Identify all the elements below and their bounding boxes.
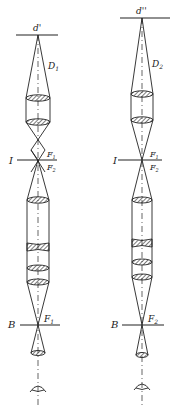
right-object-label: d''	[136, 6, 147, 16]
left-optical-train	[16, 35, 60, 405]
left-back-plane-label: B	[7, 319, 15, 330]
right-diameter-label: D2	[151, 59, 163, 70]
right-intermediate-label: I	[112, 155, 118, 166]
left-eyepiece-lens	[31, 351, 45, 356]
right-lens-1	[131, 91, 153, 97]
left-lens-6	[27, 279, 49, 285]
left-diameter-label: D1	[47, 61, 59, 72]
left-back-focus-label: F1	[43, 314, 54, 325]
right-lens-5	[132, 259, 152, 265]
right-lens-3	[132, 197, 152, 203]
left-lens-5	[27, 265, 49, 271]
left-intermediate-label: I	[8, 155, 14, 166]
optical-diagram: d' D1 I F1 F2 B F1	[0, 0, 178, 412]
left-focus-bottom-label: F2	[46, 163, 56, 173]
left-lens-2	[26, 119, 50, 125]
right-back-focus-label: F2	[147, 314, 158, 325]
right-lens-2	[131, 117, 153, 123]
left-lens-1	[26, 95, 50, 101]
left-focus-top-label: F1	[46, 150, 56, 160]
right-optical-train	[118, 18, 170, 405]
left-lens-3	[27, 197, 49, 203]
right-lens-6	[132, 274, 152, 280]
left-object-label: d'	[33, 23, 41, 33]
right-focus-bottom-label: F2	[149, 163, 159, 173]
right-back-plane-label: B	[110, 319, 118, 330]
right-eyepiece-lens	[136, 353, 148, 358]
right-lens-4-concave	[132, 239, 152, 247]
right-focus-top-label: F1	[149, 150, 159, 160]
left-lens-4-concave	[27, 243, 49, 251]
